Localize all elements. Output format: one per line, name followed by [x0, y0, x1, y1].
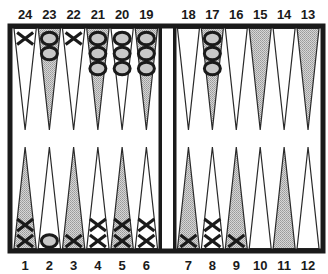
point-label: 13 [301, 7, 315, 22]
point-label: 22 [66, 7, 80, 22]
checker-o[interactable] [90, 47, 106, 60]
point-label: 21 [91, 7, 105, 22]
point-label: 16 [229, 7, 243, 22]
point-label: 24 [18, 7, 33, 22]
board-surface [11, 27, 322, 250]
point-label: 4 [94, 258, 102, 273]
checker-o[interactable] [114, 47, 130, 60]
point-label: 11 [277, 258, 291, 273]
checker-o[interactable] [204, 47, 220, 60]
checker-o[interactable] [114, 62, 130, 75]
backgammon-board: 242322212019181716151413 123456789101112 [0, 0, 328, 274]
point-label: 9 [233, 258, 240, 273]
checker-o[interactable] [138, 32, 154, 45]
point-label: 5 [119, 258, 126, 273]
point-label: 6 [143, 258, 150, 273]
checker-o[interactable] [138, 47, 154, 60]
point-label: 10 [253, 258, 267, 273]
point-label: 12 [301, 258, 315, 273]
checker-o[interactable] [90, 32, 106, 45]
point-label: 23 [42, 7, 56, 22]
point-label: 15 [253, 7, 267, 22]
bar-right-edge [173, 26, 177, 251]
top-point-labels: 242322212019181716151413 [18, 7, 315, 22]
point-label: 1 [22, 258, 29, 273]
checker-o[interactable] [204, 62, 220, 75]
checker-o[interactable] [41, 47, 57, 60]
checker-o[interactable] [114, 32, 130, 45]
point-label: 14 [277, 7, 292, 22]
point-label: 19 [139, 7, 153, 22]
point-label: 7 [185, 258, 192, 273]
point-label: 18 [181, 7, 195, 22]
point-label: 17 [205, 7, 219, 22]
point-label: 20 [115, 7, 129, 22]
point-label: 3 [70, 258, 77, 273]
checker-o[interactable] [41, 235, 57, 248]
bottom-point-labels: 123456789101112 [22, 258, 316, 273]
point-label: 8 [209, 258, 216, 273]
checker-o[interactable] [90, 62, 106, 75]
checker-o[interactable] [138, 62, 154, 75]
checker-o[interactable] [41, 32, 57, 45]
point-label: 2 [46, 258, 53, 273]
checker-o[interactable] [204, 32, 220, 45]
bar-left-edge [159, 26, 163, 251]
